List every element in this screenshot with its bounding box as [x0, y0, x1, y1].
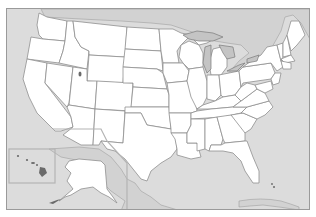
hawaii-inset — [9, 149, 55, 183]
great-salt-lake — [79, 72, 82, 77]
state-kansas — [131, 87, 169, 107]
hawaii-islands — [17, 155, 47, 177]
bahamas — [271, 183, 275, 188]
state-new-mexico — [93, 109, 125, 145]
cuba-land — [239, 199, 299, 210]
us-outline-map — [6, 8, 310, 210]
lake-michigan — [203, 45, 211, 73]
state-indiana — [207, 75, 221, 101]
state-iowa — [163, 63, 189, 83]
state-colorado — [95, 81, 133, 111]
state-north-dakota — [125, 27, 161, 51]
state-wyoming — [87, 55, 125, 83]
state-oregon — [27, 37, 65, 63]
state-florida — [209, 141, 259, 183]
state-arkansas — [169, 113, 191, 133]
map-canvas — [7, 9, 310, 210]
